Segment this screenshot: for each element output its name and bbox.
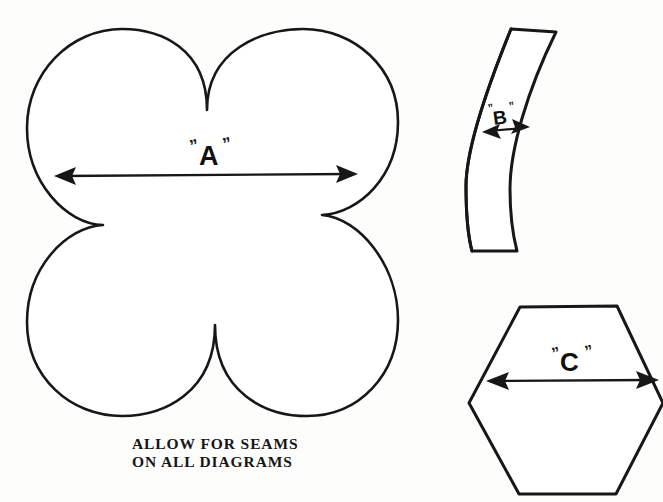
caption-line-1: ALLOW FOR SEAMS (132, 435, 299, 454)
pattern-diagram: ” A ” ” B ” ” C ” (0, 0, 663, 502)
dimension-line-c (495, 380, 650, 381)
label-a: A (199, 141, 219, 171)
pattern-sheet: ” A ” ” B ” ” C ” ALLOW FOR SEA (0, 0, 663, 502)
label-c: C (560, 347, 579, 377)
shape-curved-strip-group[interactable] (466, 29, 556, 251)
caption-line-2: ON ALL DIAGRAMS (132, 453, 293, 472)
clover-outline (27, 29, 398, 416)
curved-strip-outline (466, 29, 556, 251)
label-b: B (492, 106, 509, 129)
hexagon-outline (469, 306, 663, 494)
shape-hexagon-group[interactable] (469, 306, 663, 494)
shape-clover-group[interactable] (27, 29, 398, 416)
